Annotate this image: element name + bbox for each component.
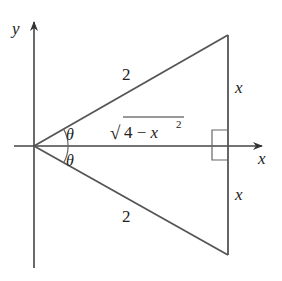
triangle-diagram: y x 2 2 x x θ θ √ 4 − x 2 [0,0,282,281]
right-angle-marker [212,130,228,160]
upper-angle-label: θ [66,126,74,143]
lower-angle-label: θ [66,152,74,169]
upper-hypotenuse-label: 2 [122,65,131,84]
radicand-exponent: 2 [176,118,182,130]
x-axis-label: x [257,149,266,168]
lower-leg-label: x [234,185,243,204]
radicand-text: 4 − x [124,123,159,142]
lower-hypotenuse [34,146,228,255]
adjacent-side-label: √ 4 − x 2 [110,117,184,143]
radicand-body: 4 − [124,123,151,142]
upper-leg-label: x [234,78,243,97]
radical-sign: √ [110,122,121,143]
lower-hypotenuse-label: 2 [122,207,131,226]
y-axis-label: y [10,19,20,38]
